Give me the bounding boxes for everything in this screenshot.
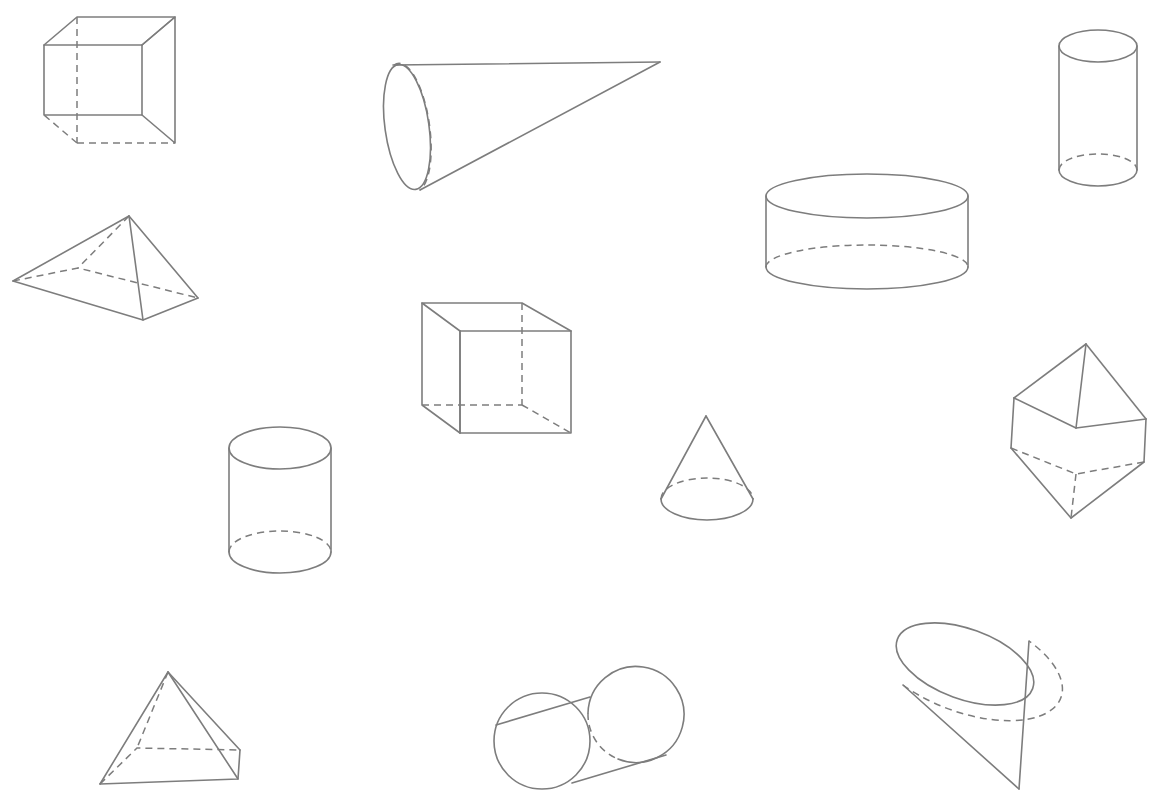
cylinder-flat-top-ellipse xyxy=(766,174,968,218)
cone-small-base-hidden-arc xyxy=(661,478,753,499)
cube-tilted-edge-r-c xyxy=(1076,419,1146,428)
cone-small-left-slant xyxy=(661,416,706,499)
pyramid-bottom-edge-b xyxy=(168,672,238,779)
cone-bottom-right-right-slant xyxy=(1019,641,1029,789)
cylinder-tall-bottom-front-arc xyxy=(1059,170,1137,186)
shape-cube-top-left xyxy=(44,17,175,143)
pyramid-bottom-hidden-lateral-edge xyxy=(137,672,168,748)
cube-top-left-right-face xyxy=(142,17,175,143)
cylinder-tall-bottom-hidden-arc xyxy=(1059,154,1137,170)
worksheet-canvas xyxy=(0,0,1153,794)
shape-cylinder-center-left xyxy=(229,427,331,573)
shape-cylinder-tall-right xyxy=(1059,30,1137,186)
cube-tilted-edge-ll-b xyxy=(1011,448,1071,518)
pyramid-bottom-edge-a xyxy=(100,672,168,784)
cube-center-hidden-diagonal xyxy=(522,405,571,433)
shape-cylinder-bottom-oblique xyxy=(494,666,684,789)
geometric-solids-illustration xyxy=(0,0,1153,794)
shape-cylinder-flat-wide xyxy=(766,174,968,289)
cone-large-upper-slant xyxy=(393,62,660,65)
cube-tilted-edge-l-ll xyxy=(1011,398,1014,448)
cylinder-oblique-upper-edge xyxy=(496,697,590,725)
pyramid-left-edge-c xyxy=(129,216,198,298)
cube-tilted-edge-l-c xyxy=(1014,398,1076,428)
pyramid-bottom-hidden-base-edges xyxy=(100,748,240,784)
shape-cone-large-horizontal xyxy=(376,62,660,193)
cube-top-left-front-face xyxy=(44,45,142,115)
cube-tilted-edge-rr-b xyxy=(1071,462,1144,518)
cube-tilted-edge-t-c xyxy=(1076,344,1086,428)
cube-tilted-hidden-h-b xyxy=(1071,474,1076,518)
pyramid-left-edge-a xyxy=(13,216,129,281)
pyramid-left-visible-base-edges xyxy=(13,281,198,320)
cone-bottom-right-base-ellipse xyxy=(885,606,1044,721)
cube-tilted-hidden-rr-h xyxy=(1076,462,1144,474)
cone-small-base-front-arc xyxy=(661,499,753,520)
cube-center-front-face xyxy=(460,331,571,433)
pyramid-left-hidden-lateral-edge xyxy=(78,216,129,268)
cone-large-base-hidden-arc xyxy=(394,63,431,190)
cube-tilted-edge-r-rr xyxy=(1144,419,1146,462)
pyramid-left-edge-b xyxy=(129,216,143,320)
shape-cube-center xyxy=(422,303,571,433)
shape-pyramid-left xyxy=(13,216,198,320)
shape-cone-bottom-right xyxy=(885,606,1062,789)
pyramid-bottom-visible-base-edges xyxy=(100,750,240,784)
cylinder-center-left-top-ellipse xyxy=(229,427,331,469)
cube-tilted-edge-t-l xyxy=(1014,344,1086,398)
cone-large-lower-slant xyxy=(420,62,660,190)
cube-center-left-face xyxy=(422,303,460,433)
cylinder-flat-bottom-hidden-arc xyxy=(766,245,968,267)
pyramid-bottom-edge-c xyxy=(168,672,240,750)
shape-pyramid-bottom-left xyxy=(100,672,240,784)
cube-top-left-top-face xyxy=(44,17,175,45)
cylinder-tall-top-ellipse xyxy=(1059,30,1137,62)
cone-bottom-right-base-hidden-arc xyxy=(903,641,1062,721)
cylinder-oblique-front-circle xyxy=(494,693,590,789)
shape-cone-small-upright xyxy=(661,416,753,520)
cone-bottom-right-left-slant xyxy=(903,685,1019,789)
cylinder-oblique-back-circle-hidden xyxy=(588,713,618,759)
shape-cube-tilted-right xyxy=(1011,344,1146,518)
cube-top-left-hidden-diagonal xyxy=(44,115,77,143)
cylinder-flat-bottom-front-arc xyxy=(766,267,968,289)
cube-tilted-hidden-ll-h xyxy=(1011,448,1076,474)
cube-tilted-edge-t-r xyxy=(1086,344,1146,419)
pyramid-left-hidden-base-edges xyxy=(13,268,198,298)
cone-small-right-slant xyxy=(706,416,753,499)
cylinder-center-left-bottom-hidden-arc xyxy=(229,531,331,552)
cube-center-top-face xyxy=(422,303,571,331)
cylinder-center-left-bottom-front-arc xyxy=(229,552,331,573)
